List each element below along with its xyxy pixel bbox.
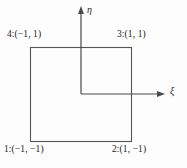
eta-axis-label: η	[87, 5, 92, 15]
xi-axis-arrowhead	[157, 91, 165, 97]
caption-sliver	[0, 163, 187, 168]
node-label-1: 1:(−1, −1)	[4, 144, 44, 155]
figure-container: 4:(−1, 1) 3:(1, 1) 1:(−1, −1) 2:(1, −1) …	[0, 0, 187, 168]
node-label-4: 4:(−1, 1)	[7, 29, 41, 40]
node-label-2: 2:(1, −1)	[112, 144, 146, 155]
diagram-canvas	[0, 0, 187, 168]
node-label-3: 3:(1, 1)	[117, 29, 146, 40]
xi-axis-label: ξ	[170, 86, 174, 96]
eta-axis-arrowhead	[78, 6, 84, 14]
